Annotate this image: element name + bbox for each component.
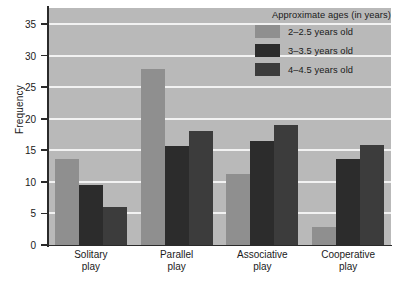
bar-chart-figure: Frequency 05101520253035 Solitary playPa… xyxy=(0,0,401,282)
legend-color-swatch xyxy=(255,44,280,57)
y-axis-tick xyxy=(41,23,48,25)
y-axis-tick xyxy=(41,213,48,215)
bar xyxy=(250,141,274,245)
y-axis-tick xyxy=(41,86,48,88)
bar xyxy=(274,125,298,245)
legend-color-swatch xyxy=(255,63,280,76)
y-axis-tick xyxy=(41,149,48,151)
y-axis-tick xyxy=(41,55,48,57)
gridline xyxy=(48,149,391,151)
legend-title: Approximate ages (in years) xyxy=(227,10,393,20)
x-axis-category-label: Cooperative play xyxy=(293,249,401,272)
legend-entry: 2–2.5 years old xyxy=(227,25,393,38)
y-axis-tick xyxy=(41,244,48,246)
bar xyxy=(103,207,127,245)
legend-label: 2–2.5 years old xyxy=(288,27,353,37)
legend-entry: 3–3.5 years old xyxy=(227,44,393,57)
legend-entries: 2–2.5 years old3–3.5 years old4–4.5 year… xyxy=(227,25,393,76)
legend: Approximate ages (in years) 2–2.5 years … xyxy=(227,10,393,82)
gridline xyxy=(48,86,391,88)
gridline xyxy=(48,118,391,120)
bar xyxy=(189,131,213,245)
bar xyxy=(79,185,103,245)
y-axis-tick-label: 5 xyxy=(0,208,36,219)
bar xyxy=(336,159,360,246)
y-axis-tick-label: 10 xyxy=(0,176,36,187)
bar xyxy=(55,159,79,246)
y-axis-title: Frequency xyxy=(14,65,25,155)
x-axis-line xyxy=(47,245,392,247)
legend-label: 4–4.5 years old xyxy=(288,65,353,75)
y-axis-tick-label: 35 xyxy=(0,19,36,30)
bar xyxy=(360,145,384,245)
y-axis-tick xyxy=(41,181,48,183)
y-axis-tick-label: 30 xyxy=(0,50,36,61)
legend-label: 3–3.5 years old xyxy=(288,46,353,56)
legend-color-swatch xyxy=(255,25,280,38)
bar xyxy=(226,174,250,245)
bar xyxy=(312,227,336,245)
bar xyxy=(141,69,165,245)
y-axis-tick-label: 25 xyxy=(0,82,36,93)
y-axis-tick-label: 20 xyxy=(0,113,36,124)
legend-entry: 4–4.5 years old xyxy=(227,63,393,76)
y-axis-tick-label: 15 xyxy=(0,145,36,156)
y-axis-tick xyxy=(41,118,48,120)
y-axis-line xyxy=(47,6,49,247)
bar xyxy=(165,146,189,245)
y-axis-tick-label: 0 xyxy=(0,240,36,251)
